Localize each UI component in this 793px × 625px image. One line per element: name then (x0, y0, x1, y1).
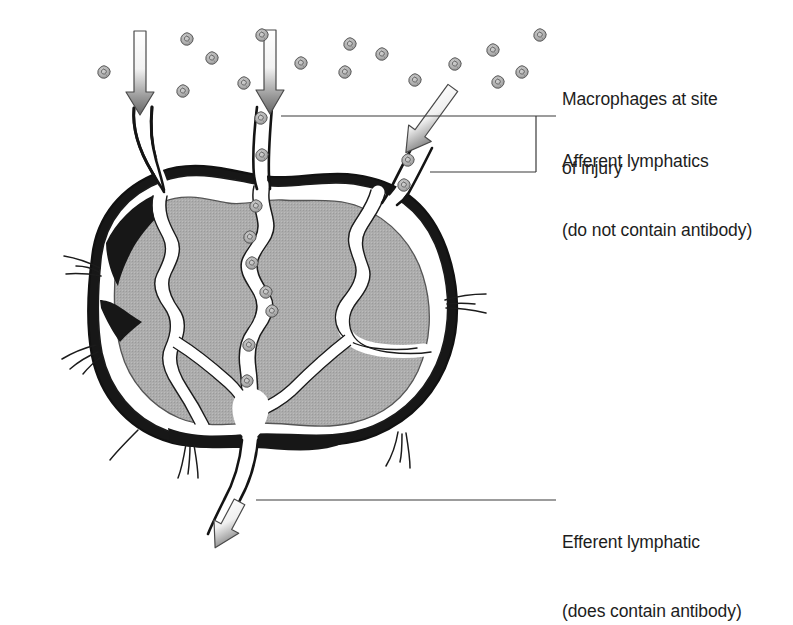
label-afferent-line1: Afferent lymphatics (562, 150, 752, 173)
label-efferent-line1: Efferent lymphatic (562, 531, 742, 554)
label-efferent-lymphatic: Efferent lymphatic (does contain antibod… (562, 485, 742, 625)
label-afferent-line2: (do not contain antibody) (562, 219, 752, 242)
label-efferent-line2: (does contain antibody) (562, 600, 742, 623)
label-afferent-lymphatics: Afferent lymphatics (do not contain anti… (562, 104, 752, 265)
